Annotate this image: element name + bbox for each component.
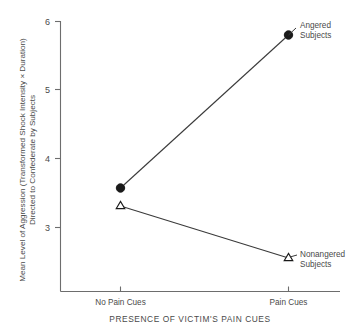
y-tick-label-4: 4 (45, 154, 50, 164)
y-axis-title-line2: Directed to Confederate by Subjects (28, 95, 37, 225)
chart-figure: 6 5 4 3 No Pain Cues Pain Cues PRESENCE … (0, 0, 358, 336)
x-axis-title: PRESENCE OF VICTIM'S PAIN CUES (109, 314, 270, 324)
plot-area: 6 5 4 3 No Pain Cues Pain Cues PRESENCE … (0, 0, 358, 336)
y-tick-label-6: 6 (45, 17, 50, 27)
legend-label-nonangered-line2: Subjects (300, 260, 331, 269)
x-tick-label-pain-cues: Pain Cues (270, 298, 308, 307)
legend-label-angered-line2: Subjects (300, 31, 331, 40)
y-tick-label-3: 3 (45, 223, 50, 233)
y-axis-title-line1: Mean Level of Aggression (Transformed Sh… (18, 38, 27, 282)
series-line-nonangered (121, 206, 289, 258)
x-tick-label-no-pain-cues: No Pain Cues (95, 298, 146, 307)
data-point-nonangered-no-pain-cues (116, 201, 125, 208)
legend-leader-nonangered (290, 255, 297, 257)
legend-label-angered-line1: Angered (300, 21, 331, 30)
legend-label-nonangered-line1: Nonangered (300, 250, 346, 259)
y-tick-label-5: 5 (45, 85, 50, 95)
data-point-angered-no-pain-cues (116, 184, 124, 192)
series-line-angered (121, 35, 289, 188)
